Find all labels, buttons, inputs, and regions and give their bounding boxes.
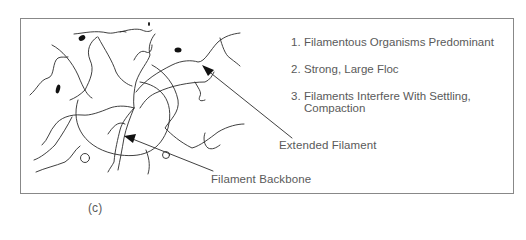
extended-filament-label: Extended Filament [279,139,377,151]
particle [81,154,90,163]
filament [146,150,149,174]
filament [98,37,132,86]
filament [70,37,97,100]
dark-particle [175,48,182,53]
filament [30,57,68,95]
filament [34,117,72,160]
extended-filament-leader [207,70,292,138]
list-item-2: 2.Strong, Large Floc [291,63,399,75]
list-item-3: 3.Filaments Interfere With Settling, Com… [291,90,471,114]
filament [152,65,244,148]
filament [42,106,134,145]
filament-backbone-leader [130,138,213,171]
arrowhead-backbone [124,134,136,143]
dark-particle [55,84,61,94]
panel-label: (c) [88,201,102,215]
list-item-1: 1.Filamentous Organisms Predominant [291,36,494,48]
dark-particle [148,22,150,26]
filament [74,31,126,34]
filament [220,38,240,66]
filament-backbone-label: Filament Backbone [211,173,311,185]
dark-particle [78,34,87,42]
filament [36,146,80,172]
filament [195,82,205,101]
